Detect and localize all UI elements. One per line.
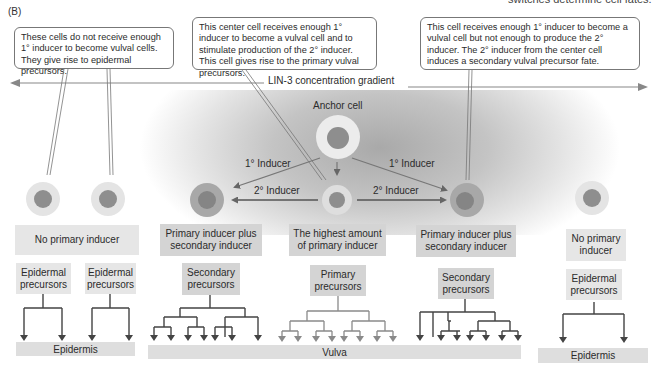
cell-secondary-left xyxy=(190,183,224,217)
diagram-graphics xyxy=(0,0,661,370)
secondary-left-arrowheads xyxy=(150,335,262,341)
condition-no-primary-right: No primary inducer xyxy=(566,229,626,261)
outcome-epidermis-right: Epidermis xyxy=(538,348,648,363)
primary-inducer-right-label: 1° Inducer xyxy=(389,158,435,169)
secondary-inducer-right-label: 2° Inducer xyxy=(373,185,419,196)
lineage-tree-secondary-left xyxy=(154,294,258,337)
precursor-secondary-left: Secondary precursors xyxy=(182,263,240,295)
cell-epidermal-1 xyxy=(26,182,60,216)
epidermis-arrowheads-right xyxy=(559,337,628,343)
outcome-epidermis-left: Epidermis xyxy=(16,342,135,356)
precursor-secondary-right: Secondary precursors xyxy=(438,268,494,299)
lineage-tree-primary xyxy=(282,296,393,338)
cell-primary-center xyxy=(322,185,352,215)
outcome-vulva: Vulva xyxy=(148,345,521,359)
condition-primary-plus-secondary-left: Primary inducer plus secondary inducer xyxy=(160,224,262,256)
gradient-label: LIN-3 concentration gradient xyxy=(264,75,398,86)
condition-primary-plus-secondary-right: Primary inducer plus secondary inducer xyxy=(416,225,516,257)
secondary-right-arrowheads xyxy=(416,335,522,341)
anchor-cell xyxy=(316,115,360,159)
lineage-tree-epidermal-2 xyxy=(92,294,129,337)
precursor-epidermal-3: Epidermal precursors xyxy=(566,269,622,300)
cell-epidermal-2 xyxy=(91,182,125,216)
primary-arrowheads xyxy=(278,336,397,342)
anchor-cell-label: Anchor cell xyxy=(313,100,362,111)
epidermis-arrowheads-left xyxy=(20,335,133,341)
lineage-tree-epidermal-1 xyxy=(24,294,62,337)
precursor-epidermal-2: Epidermal precursors xyxy=(85,263,136,294)
secondary-inducer-left-label: 2° Inducer xyxy=(254,185,300,196)
precursor-epidermal-1: Epidermal precursors xyxy=(16,263,71,294)
condition-highest-primary: The highest amount of primary inducer xyxy=(289,224,386,256)
condition-no-primary-left: No primary inducer xyxy=(15,225,139,255)
lineage-tree-secondary-right xyxy=(433,298,518,337)
cell-epidermal-3 xyxy=(575,181,609,215)
cell-secondary-right xyxy=(450,183,484,217)
primary-inducer-left-label: 1° Inducer xyxy=(245,158,291,169)
precursor-primary: Primary precursors xyxy=(310,265,366,296)
lineage-tree-epidermal-3 xyxy=(563,302,624,339)
